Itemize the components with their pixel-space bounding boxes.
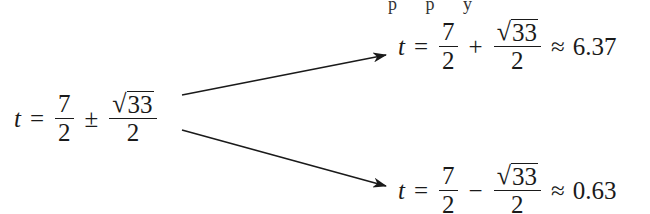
arrow-down-icon — [182, 130, 386, 186]
arrow-up-icon — [182, 55, 386, 95]
branch-arrows — [0, 0, 650, 214]
